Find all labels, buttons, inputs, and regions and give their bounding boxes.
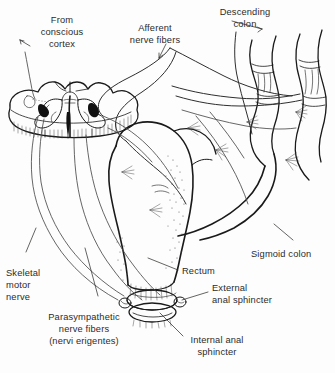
label-line: From: [51, 15, 73, 25]
label-line: Rectum: [182, 266, 215, 276]
label-line: motor: [6, 280, 31, 290]
label-line: Descending: [220, 7, 271, 17]
label-line: Parasympathetic: [48, 312, 120, 322]
label-sigmoid-colon: Sigmoid colon: [251, 249, 311, 259]
label-line: conscious: [41, 27, 84, 37]
label-line: Internal anal: [190, 335, 243, 345]
label-line: External: [212, 283, 247, 293]
label-rectum: Rectum: [182, 266, 215, 276]
label-line: nerve fibers: [59, 324, 110, 334]
label-line: cortex: [49, 39, 75, 49]
label-line: nerve fibers: [130, 35, 181, 45]
label-line: Afferent: [138, 23, 172, 33]
label-line: (nervi erigentes): [49, 336, 119, 346]
defecation-reflex-diagram: From conscious cortex Afferent nerve fib…: [0, 0, 335, 373]
label-line: nerve: [6, 292, 30, 302]
label-line: anal sphincter: [212, 295, 272, 305]
label-line: colon: [234, 19, 257, 29]
label-line: Sigmoid colon: [251, 249, 311, 259]
label-line: Skeletal: [6, 268, 40, 278]
label-line: sphincter: [197, 347, 236, 357]
